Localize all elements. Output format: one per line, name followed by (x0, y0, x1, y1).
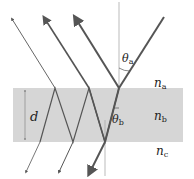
theta-a-arc (119, 68, 130, 71)
transmitted-ray-3 (26, 142, 40, 172)
n-c-label: nc (156, 145, 168, 159)
transmitted-ray-2 (59, 142, 73, 172)
reflected-ray-3 (12, 19, 55, 88)
theta-b-label: θb (112, 114, 124, 127)
n-a-label: na (154, 77, 167, 91)
transmitted-ray-1 (90, 142, 105, 172)
n-b-label: nb (154, 110, 167, 124)
theta-a-label: θa (122, 53, 133, 66)
thickness-label: d (30, 110, 38, 123)
